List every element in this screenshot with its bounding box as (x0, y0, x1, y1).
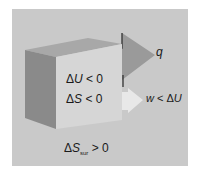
work-arrow (122, 88, 143, 113)
work-label: w < ΔU (146, 92, 182, 104)
delta-u-label: ΔU < 0 (66, 72, 103, 86)
cube-front-face (56, 44, 122, 129)
delta-s-label: ΔS < 0 (66, 92, 102, 106)
cube-side-face (25, 50, 56, 129)
delta-s-sur-label: ΔSsur > 0 (64, 141, 109, 156)
heat-label: q (156, 45, 163, 59)
